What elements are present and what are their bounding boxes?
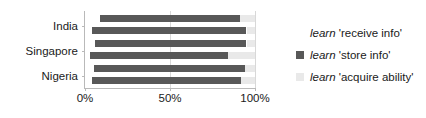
- legend-label: learn 'receive info': [310, 27, 402, 39]
- bar-segment-store-info: [90, 52, 228, 59]
- bar-segment-acquire-ability: [247, 40, 256, 47]
- bar-row: [85, 77, 255, 84]
- y-tick-label-singapore: Singapore: [0, 45, 78, 57]
- bar-segment-receive-info: [85, 40, 95, 47]
- bar-segment-receive-info: [85, 77, 92, 84]
- plot-area: [85, 11, 255, 88]
- legend-label: learn 'store info': [310, 49, 390, 61]
- bar-segment-store-info: [92, 77, 242, 84]
- legend-swatch-icon: [296, 51, 304, 59]
- bar-row: [85, 15, 255, 22]
- x-tick-mark-50: [170, 88, 171, 91]
- legend-entry-acquire-ability: learn 'acquire ability': [296, 66, 424, 88]
- bar-segment-acquire-ability: [241, 77, 255, 84]
- legend-target: 'acquire ability': [339, 71, 414, 83]
- legend-entry-receive-info: learn 'receive info': [296, 22, 424, 44]
- bar-segment-receive-info: [85, 27, 92, 34]
- legend-verb: learn: [310, 49, 336, 61]
- legend-verb: learn: [310, 71, 336, 83]
- x-tick-label-100: 100%: [240, 92, 269, 104]
- y-tick-label-india: India: [0, 20, 78, 32]
- x-tick-mark-0: [85, 88, 86, 91]
- legend-verb: learn: [310, 27, 336, 39]
- bar-chart-figure: India Singapore Nigeria: [0, 0, 426, 118]
- bar-segment-acquire-ability: [247, 27, 256, 34]
- gridline-100: [255, 11, 256, 88]
- legend-target: 'receive info': [339, 27, 402, 39]
- legend-entry-store-info: learn 'store info': [296, 44, 424, 66]
- bar-segment-store-info: [92, 27, 247, 34]
- bar-segment-receive-info: [85, 15, 100, 22]
- bar-segment-store-info: [95, 40, 246, 47]
- bar-row: [85, 65, 255, 72]
- bar-segment-acquire-ability: [228, 52, 255, 59]
- legend-target: 'store info': [339, 49, 391, 61]
- bar-segment-store-info: [94, 65, 245, 72]
- legend-swatch-icon: [296, 73, 304, 81]
- x-tick-mark-100: [255, 88, 256, 91]
- y-tick-label-nigeria: Nigeria: [0, 70, 78, 82]
- bar-segment-acquire-ability: [240, 15, 255, 22]
- bar-row: [85, 27, 255, 34]
- bar-row: [85, 40, 255, 47]
- bar-segment-receive-info: [85, 65, 94, 72]
- bar-segment-store-info: [100, 15, 239, 22]
- chart-legend: learn 'receive info' learn 'store info' …: [296, 22, 424, 88]
- legend-label: learn 'acquire ability': [310, 71, 414, 83]
- bar-segment-acquire-ability: [245, 65, 255, 72]
- bar-row: [85, 52, 255, 59]
- legend-swatch-icon: [296, 29, 304, 37]
- x-tick-label-50: 50%: [158, 92, 181, 104]
- x-tick-label-0: 0%: [77, 92, 94, 104]
